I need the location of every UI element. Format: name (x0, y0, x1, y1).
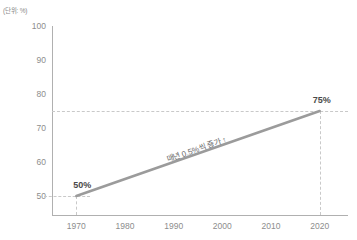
line-chart: (단위: %) 5060708090100 50%75% 19701980199… (0, 0, 357, 240)
point-value-label: 75% (313, 95, 331, 105)
x-tick-label: 2010 (262, 221, 281, 231)
point-value-label: 50% (73, 180, 91, 190)
x-tick-label: 2020 (310, 221, 329, 231)
x-tick-label: 1970 (67, 221, 86, 231)
series-layer (0, 0, 357, 240)
x-tick-label: 1980 (116, 221, 135, 231)
x-tick-label: 1990 (164, 221, 183, 231)
x-tick-label: 2000 (213, 221, 232, 231)
